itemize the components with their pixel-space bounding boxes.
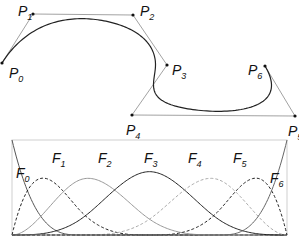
control-point-dot bbox=[131, 13, 134, 16]
spline-curve bbox=[2, 19, 271, 112]
basis-label: F1 bbox=[52, 150, 66, 169]
basis-curve bbox=[12, 178, 287, 235]
basis-curve bbox=[12, 172, 287, 235]
control-point-label: P5 bbox=[288, 123, 299, 142]
basis-curve bbox=[12, 178, 287, 235]
control-points: P0P1P2P3P4P5P6 bbox=[0, 3, 299, 142]
basis-label: F6 bbox=[270, 170, 284, 189]
basis-curve bbox=[12, 178, 287, 235]
control-point-dot bbox=[0, 61, 3, 64]
spline-diagram: P0P1P2P3P4P5P6 F0F1F2F3F4F5F6 bbox=[0, 0, 299, 240]
control-point-label: P3 bbox=[172, 62, 186, 81]
control-point-dot bbox=[293, 114, 296, 117]
control-point-label: P4 bbox=[126, 122, 140, 141]
control-point-label: P1 bbox=[18, 3, 32, 22]
basis-function-panel: F0F1F2F3F4F5F6 bbox=[12, 140, 287, 235]
control-point-label: P0 bbox=[9, 65, 23, 84]
basis-label: F3 bbox=[144, 150, 158, 169]
basis-label: F4 bbox=[188, 150, 202, 169]
control-point-label: P6 bbox=[248, 62, 262, 81]
control-point-dot bbox=[263, 64, 266, 67]
basis-label: F0 bbox=[16, 165, 30, 184]
control-point-dot bbox=[130, 113, 133, 116]
control-point-dot bbox=[165, 63, 168, 66]
control-point-label: P2 bbox=[140, 3, 154, 22]
basis-curve bbox=[12, 178, 287, 235]
curve-panel: P0P1P2P3P4P5P6 bbox=[0, 3, 299, 142]
basis-label: F2 bbox=[98, 150, 112, 169]
basis-label: F5 bbox=[233, 150, 248, 169]
